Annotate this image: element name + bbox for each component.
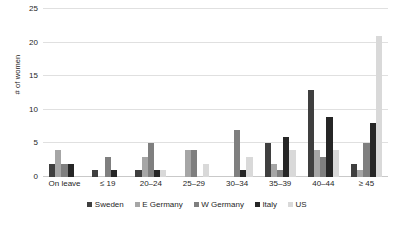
- legend-swatch-icon: [135, 202, 140, 207]
- legend-swatch-icon: [288, 202, 293, 207]
- bar[interactable]: [376, 36, 382, 177]
- bar[interactable]: [333, 150, 339, 177]
- legend-item[interactable]: Sweden: [87, 200, 123, 209]
- legend-item[interactable]: W Germany: [194, 200, 244, 209]
- bar-group: [302, 9, 345, 177]
- legend-label: E Germany: [142, 200, 182, 209]
- x-axis-labels: On leave≤ 1920–2425–2930–3435–3940–44≥ 4…: [43, 179, 388, 188]
- y-axis-tick: 0: [34, 172, 38, 181]
- legend-item[interactable]: US: [288, 200, 307, 209]
- bar-group: [86, 9, 129, 177]
- legend-label: US: [296, 200, 307, 209]
- x-axis-label: 35–39: [259, 179, 302, 188]
- legend-swatch-icon: [194, 202, 199, 207]
- bar-group: [43, 9, 86, 177]
- bar[interactable]: [68, 164, 74, 177]
- chart-legend: SwedenE GermanyW GermanyItalyUS: [0, 200, 394, 209]
- bar[interactable]: [160, 170, 166, 177]
- bar[interactable]: [92, 170, 98, 177]
- legend-label: Sweden: [95, 200, 124, 209]
- bar-group: [129, 9, 172, 177]
- bar[interactable]: [111, 170, 117, 177]
- bar-groups: [43, 9, 388, 177]
- x-axis-label: ≤ 19: [86, 179, 129, 188]
- x-axis-label: 25–29: [172, 179, 215, 188]
- legend-item[interactable]: E Germany: [135, 200, 183, 209]
- legend-swatch-icon: [255, 202, 260, 207]
- bar-group: [216, 9, 259, 177]
- bar-group: [345, 9, 388, 177]
- legend-label: W Germany: [201, 200, 244, 209]
- y-axis-tick: 5: [34, 138, 38, 147]
- y-axis-title: # of women: [13, 30, 22, 120]
- bar-group: [172, 9, 215, 177]
- legend-swatch-icon: [87, 202, 92, 207]
- x-axis-label: 20–24: [129, 179, 172, 188]
- legend-item[interactable]: Italy: [255, 200, 277, 209]
- y-axis-tick: 20: [29, 37, 38, 46]
- bar-group: [259, 9, 302, 177]
- plot-area: 0510152025: [43, 9, 388, 177]
- bar[interactable]: [191, 150, 197, 177]
- bar-chart: # of women 0510152025 On leave≤ 1920–242…: [0, 0, 394, 235]
- y-axis-tick: 15: [29, 71, 38, 80]
- bar[interactable]: [246, 157, 252, 177]
- bar[interactable]: [203, 164, 209, 177]
- legend-label: Italy: [262, 200, 277, 209]
- y-axis-tick: 25: [29, 4, 38, 13]
- x-axis-label: On leave: [43, 179, 86, 188]
- x-axis-label: ≥ 45: [345, 179, 388, 188]
- y-axis-tick: 10: [29, 104, 38, 113]
- bar[interactable]: [289, 150, 295, 177]
- x-axis-label: 30–34: [216, 179, 259, 188]
- x-axis-label: 40–44: [302, 179, 345, 188]
